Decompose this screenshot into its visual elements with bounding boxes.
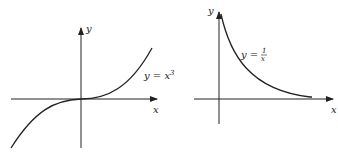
cubic-equation-exponent: 3 [170,69,175,77]
cubic-equation-base: y = x [143,70,170,81]
cubic-graph: y x y = x3 [11,23,175,148]
reciprocal-equation-denominator: x [261,55,265,63]
reciprocal-graph: y x y = 1 x [194,5,337,124]
x-axis-label: x [331,104,337,115]
y-axis-label: y [85,23,92,34]
y-axis-label: y [207,5,214,16]
figure-canvas: y x y = x3 y x y = 1 x [0,0,338,155]
reciprocal-equation-numerator: 1 [262,47,266,55]
cubic-equation: y = x3 [143,69,175,81]
x-axis-label: x [153,104,159,115]
reciprocal-curve [221,14,312,97]
reciprocal-equation-lhs: y = [240,49,258,60]
